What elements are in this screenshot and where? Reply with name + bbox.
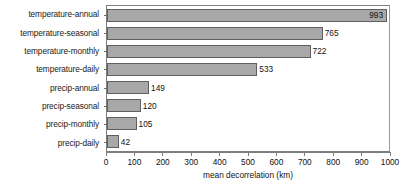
- x-tick-mark: [248, 152, 249, 156]
- x-tick-mark: [106, 152, 107, 156]
- bar-row: 765: [107, 24, 389, 42]
- x-tick-label: 800: [326, 157, 340, 167]
- bar[interactable]: 722: [107, 45, 311, 58]
- x-tick-mark: [361, 152, 362, 156]
- category-label: temperature-daily: [0, 60, 103, 78]
- bar-row: 42: [107, 133, 389, 151]
- bar[interactable]: 42: [107, 135, 119, 148]
- bar[interactable]: 993: [107, 9, 387, 22]
- bar-chart: temperature-annual temperature-seasonal …: [0, 0, 412, 191]
- bar-value-label: 765: [325, 29, 339, 37]
- category-label: precip-annual: [0, 79, 103, 97]
- x-axis-title: mean decorrelation (km): [106, 170, 390, 180]
- x-tick-mark: [304, 152, 305, 156]
- bar-value-label: 42: [121, 138, 130, 146]
- x-tick-label: 300: [184, 157, 198, 167]
- bar[interactable]: 533: [107, 63, 257, 76]
- bar-value-label: 722: [313, 47, 327, 55]
- x-tick-mark: [219, 152, 220, 156]
- x-tick-label: 400: [213, 157, 227, 167]
- category-label: temperature-seasonal: [0, 23, 103, 41]
- category-axis-labels: temperature-annual temperature-seasonal …: [0, 5, 103, 152]
- x-tick-label: 200: [156, 157, 170, 167]
- category-label: precip-monthly: [0, 115, 103, 133]
- bar-row: 120: [107, 97, 389, 115]
- x-tick-label: 1000: [381, 157, 399, 167]
- bar[interactable]: 120: [107, 99, 141, 112]
- category-label: temperature-monthly: [0, 42, 103, 60]
- x-tick-mark: [191, 152, 192, 156]
- x-tick-mark: [333, 152, 334, 156]
- bar-value-label: 993: [369, 11, 383, 19]
- bar-value-label: 120: [143, 102, 157, 110]
- plot-area: 99376572253314912010542: [106, 5, 390, 152]
- x-tick-label: 100: [127, 157, 141, 167]
- bar-row: 105: [107, 115, 389, 133]
- bar-row: 533: [107, 60, 389, 78]
- x-tick-label: 600: [269, 157, 283, 167]
- bar-row: 722: [107, 42, 389, 60]
- bar-value-label: 105: [139, 120, 153, 128]
- x-tick-label: 900: [355, 157, 369, 167]
- bar[interactable]: 105: [107, 117, 137, 130]
- x-tick-mark: [390, 152, 391, 156]
- category-label: temperature-annual: [0, 5, 103, 23]
- x-tick-label: 500: [241, 157, 255, 167]
- category-label: precip-seasonal: [0, 97, 103, 115]
- bar[interactable]: 149: [107, 81, 149, 94]
- category-label: precip-daily: [0, 134, 103, 152]
- bar-row: 993: [107, 6, 389, 24]
- x-tick-label: 0: [104, 157, 109, 167]
- x-tick-label: 700: [298, 157, 312, 167]
- bar-series: 99376572253314912010542: [107, 6, 389, 151]
- bar-row: 149: [107, 79, 389, 97]
- x-axis-ticks: 01002003004005006007008009001000: [106, 152, 390, 157]
- x-tick-mark: [134, 152, 135, 156]
- bar-value-label: 533: [259, 65, 273, 73]
- x-tick-mark: [162, 152, 163, 156]
- bar-value-label: 149: [151, 83, 165, 91]
- x-tick-mark: [276, 152, 277, 156]
- bar[interactable]: 765: [107, 27, 323, 40]
